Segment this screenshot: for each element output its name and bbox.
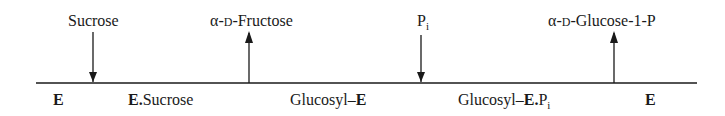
phosphate-label: Pi [417, 13, 429, 29]
state-enzyme-sucrose: E.Sucrose [128, 92, 193, 108]
state-glucosyl-enzyme-pi: Glucosyl–E.Pi [458, 92, 550, 108]
sucrose-label: Sucrose [68, 13, 119, 29]
state-free-enzyme: E [53, 92, 64, 108]
state-free-enzyme-regenerated: E [645, 92, 656, 108]
fructose-label: α-D-Fructose [210, 13, 293, 29]
state-glucosyl-enzyme: Glucosyl–E [290, 92, 366, 108]
glucose-1-p-label: α-D-Glucose-1-P [548, 13, 656, 29]
